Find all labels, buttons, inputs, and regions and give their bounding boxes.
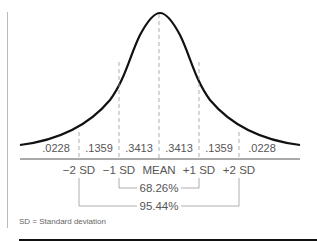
sd-guide-lines bbox=[79, 14, 239, 158]
footnote: SD = Standard deviation bbox=[19, 217, 106, 226]
normal-distribution-diagram: .0228 .1359 .3413 .3413 .1359 .0228 −2 S… bbox=[0, 0, 317, 241]
prob-label: .3413 bbox=[125, 142, 153, 154]
range-label-95: 95.44% bbox=[139, 200, 178, 212]
prob-label: .3413 bbox=[165, 142, 193, 154]
sd-label-minus-2: −2 SD bbox=[63, 164, 95, 176]
bell-curve bbox=[20, 13, 300, 145]
prob-label: .1359 bbox=[205, 142, 233, 154]
range-label-68: 68.26% bbox=[139, 182, 178, 194]
sd-labels: −2 SD −1 SD MEAN +1 SD +2 SD bbox=[63, 164, 255, 176]
sd-label-minus-1: −1 SD bbox=[103, 164, 135, 176]
prob-label: .0228 bbox=[42, 142, 70, 154]
sd-label-plus-1: +1 SD bbox=[183, 164, 215, 176]
sd-label-mean: MEAN bbox=[142, 164, 175, 176]
sd-label-plus-2: +2 SD bbox=[223, 164, 255, 176]
prob-label: .1359 bbox=[85, 142, 113, 154]
prob-label: .0228 bbox=[248, 142, 276, 154]
